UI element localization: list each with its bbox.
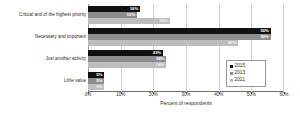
bar-value-label: 16% [130,7,139,11]
category-label-necessary: Necessary and important [2,35,86,40]
category-label-just-another: Just another activity [2,57,86,62]
xtick-label-40: 40% [214,93,223,98]
bar-2011-necessary[interactable]: 46% [88,40,238,46]
bar-value-label: 5% [96,85,102,89]
bar-group-necessary: 56% 56% 46% [88,28,284,46]
bar-chart: 16% 15% 25% 56% [0,0,300,118]
legend-item-2015[interactable]: 2015 [230,63,263,70]
x-axis-title: Percent of respondents [88,101,284,106]
bar-2011-just-another[interactable]: 24% [88,62,166,68]
bar-row: 46% [88,40,284,46]
legend-item-2011[interactable]: 2011 [230,77,263,84]
legend: 2015 2013 2011 [226,60,266,87]
bar-value-label: 24% [156,57,165,61]
legend-label: 2011 [235,78,245,83]
legend-swatch-icon [230,79,233,82]
legend-swatch-icon [230,65,233,68]
bar-2011-critical[interactable]: 25% [88,18,170,24]
legend-label: 2013 [235,71,246,76]
legend-item-2013[interactable]: 2013 [230,70,263,77]
bar-group-critical: 16% 15% 25% [88,6,284,24]
bar-2011-little-value[interactable]: 5% [88,84,104,90]
xtick-label-20: 20% [149,93,158,98]
legend-label: 2015 [235,64,246,69]
xtick-label-0: 0% [85,93,92,98]
category-label-critical: Critical and of the highest priority [2,13,86,18]
category-label-little-value: Little value [2,79,86,84]
legend-swatch-icon [230,72,233,75]
bar-value-label: 56% [260,35,269,39]
xtick-label-30: 30% [181,93,190,98]
bar-value-label: 23% [153,51,162,55]
bar-row: 25% [88,18,284,24]
bar-value-label: 15% [127,13,136,17]
bar-value-label: 56% [260,29,269,33]
bar-value-label: 46% [228,41,237,45]
xtick-label-60: 60% [279,93,288,98]
bar-value-label: 25% [159,19,168,23]
xtick-label-10: 10% [116,93,125,98]
xtick-label-50: 50% [247,93,256,98]
bar-value-label: 5% [96,79,102,83]
bar-value-label: 5% [96,73,102,77]
bar-value-label: 24% [156,63,165,67]
